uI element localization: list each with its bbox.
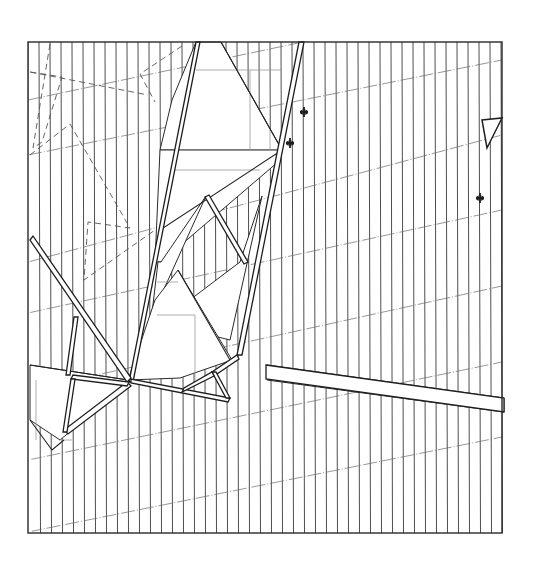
wall-beams (30, 42, 504, 434)
vertical-hatch-line (336, 42, 338, 533)
vertical-hatch-line (424, 42, 426, 533)
vertical-hatch-line (292, 42, 294, 533)
vertical-hatch-line (116, 42, 118, 533)
vertical-hatch-line (314, 42, 316, 533)
vertical-hatch-line (413, 42, 415, 533)
vertical-hatch-line (347, 42, 349, 533)
vertical-hatch-line (39, 42, 41, 533)
cross-marker-3-icon (476, 193, 484, 203)
vertical-hatch-lines (28, 42, 503, 533)
vertical-hatch-line (358, 42, 360, 533)
vertical-hatch-line (138, 42, 140, 533)
slanted-grid-lines (28, 0, 502, 532)
dashed-outline-1 (30, 44, 62, 148)
vertical-hatch-line (446, 42, 448, 533)
dashed-outline-2 (30, 72, 148, 95)
left-vertical-strut (66, 317, 78, 375)
vertical-hatch-line (270, 42, 272, 533)
architectural-plan-drawing (0, 0, 543, 565)
vertical-hatch-line (479, 42, 481, 533)
cross-marker-1-icon (300, 107, 308, 117)
vertical-hatch-line (490, 42, 492, 533)
vertical-hatch-line (435, 42, 437, 533)
vertical-hatch-line (402, 42, 404, 533)
vertical-hatch-line (457, 42, 459, 533)
right-edge-triangle (482, 118, 502, 148)
drawing-frame (28, 42, 502, 533)
vertical-hatch-line (94, 42, 96, 533)
hatching-group (28, 0, 503, 533)
cross-markers (286, 107, 484, 203)
slanted-grid-line (28, 0, 502, 100)
horizontal-beam (266, 365, 504, 412)
vertical-hatch-line (72, 42, 74, 533)
cross-marker-2-icon (286, 138, 294, 148)
vertical-hatch-line (281, 42, 283, 533)
vertical-hatch-line (105, 42, 107, 533)
center-bottom-strut (131, 379, 230, 402)
vertical-hatch-line (380, 42, 382, 533)
vertical-hatch-line (325, 42, 327, 533)
vertical-hatch-line (83, 42, 85, 533)
vertical-hatch-line (127, 42, 129, 533)
vertical-hatch-line (468, 42, 470, 533)
vertical-hatch-line (369, 42, 371, 533)
slanted-grid-line (28, 437, 502, 532)
